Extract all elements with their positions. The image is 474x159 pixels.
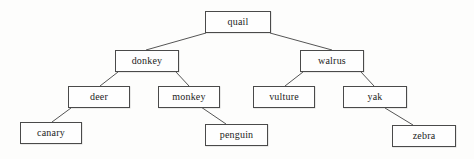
tree-node-walrus[interactable]: walrus: [300, 50, 364, 72]
tree-edge-yak-zebra: [385, 108, 413, 125]
tree-node-label: monkey: [172, 92, 205, 102]
tree-node-label: penguin: [220, 130, 254, 140]
tree-diagram: quaildonkeywalrusdeermonkeyvultureyakcan…: [0, 0, 474, 159]
tree-edge-donkey-monkey: [176, 72, 189, 86]
tree-node-penguin[interactable]: penguin: [205, 124, 268, 146]
tree-edge-monkey-penguin: [201, 107, 226, 124]
tree-node-canary[interactable]: canary: [20, 122, 82, 144]
tree-edge-walrus-yak: [361, 72, 374, 86]
tree-edge-walrus-vulture: [285, 72, 303, 86]
tree-node-vulture[interactable]: vulture: [253, 86, 315, 108]
tree-edge-quail-donkey: [146, 33, 206, 50]
tree-node-label: walrus: [318, 56, 346, 66]
tree-node-label: canary: [37, 128, 65, 138]
tree-edge-quail-walrus: [270, 33, 332, 50]
tree-node-donkey[interactable]: donkey: [115, 50, 179, 72]
tree-node-label: yak: [367, 92, 382, 102]
tree-edge-donkey-deer: [100, 72, 118, 86]
tree-node-monkey[interactable]: monkey: [158, 86, 220, 108]
tree-node-label: deer: [90, 92, 108, 102]
tree-node-label: vulture: [269, 92, 299, 102]
tree-node-yak[interactable]: yak: [343, 86, 407, 108]
tree-node-label: quail: [228, 17, 249, 27]
tree-node-label: zebra: [413, 131, 436, 141]
tree-node-zebra[interactable]: zebra: [392, 125, 456, 147]
tree-node-quail[interactable]: quail: [205, 11, 271, 33]
tree-edge-deer-canary: [52, 108, 71, 122]
tree-node-label: donkey: [132, 56, 163, 66]
tree-node-deer[interactable]: deer: [68, 86, 130, 108]
